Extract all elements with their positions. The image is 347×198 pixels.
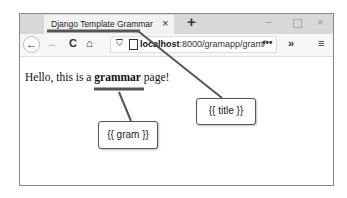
minimize-icon[interactable]: –: [266, 16, 272, 27]
new-tab-icon[interactable]: +: [187, 13, 196, 30]
greeting-bold-word: grammar: [94, 71, 141, 83]
title-callout: {{ title }}: [196, 98, 256, 125]
shield-icon[interactable]: ⛉: [116, 38, 123, 49]
greeting-text: Hello, this is a grammar page!: [25, 71, 169, 83]
page-info-icon[interactable]: [129, 39, 138, 50]
url-host: localhost: [140, 39, 180, 49]
greeting-prefix: Hello, this is a: [25, 71, 94, 83]
url-path: :8000/gramapp/gram/: [180, 39, 266, 49]
window-close-icon[interactable]: ×: [317, 16, 323, 28]
forward-icon[interactable]: →: [46, 37, 57, 49]
menu-icon[interactable]: ≡: [318, 37, 324, 49]
overflow-icon[interactable]: »: [288, 37, 294, 49]
home-icon[interactable]: ⌂: [86, 37, 93, 49]
browser-window: Django Template Grammar × + – × ← → C ⌂ …: [19, 13, 334, 186]
url-text[interactable]: localhost:8000/gramapp/gram/: [140, 39, 266, 49]
page-actions-icon[interactable]: •••: [262, 37, 273, 48]
greeting-suffix: page!: [141, 71, 169, 83]
tab-bar: Django Template Grammar × + – ×: [20, 14, 333, 34]
tab-title: Django Template Grammar: [51, 19, 153, 29]
reload-icon[interactable]: C: [69, 37, 77, 49]
close-icon[interactable]: ×: [162, 17, 168, 29]
back-icon[interactable]: ←: [23, 36, 40, 53]
gram-callout: {{ gram }}: [98, 121, 158, 149]
url-bar[interactable]: ⛉ localhost:8000/gramapp/gram/ •••: [110, 36, 277, 53]
tab-django-template-grammar[interactable]: Django Template Grammar ×: [44, 15, 174, 34]
nav-toolbar: ← → C ⌂ ⛉ localhost:8000/gramapp/gram/ •…: [20, 34, 333, 57]
maximize-icon[interactable]: [293, 19, 302, 28]
